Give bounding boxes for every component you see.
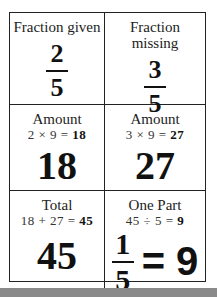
amount-equation: 2 × 9 = 18 <box>10 127 104 142</box>
total-equation: 18 + 27 = 45 <box>10 213 104 228</box>
one-part-equation: 45 ÷ 5 = 9 <box>105 213 205 228</box>
one-part-fraction: 1 5 <box>112 230 134 294</box>
equation-text: 2 × 9 = <box>28 127 73 142</box>
amount-value: 18 <box>10 144 104 188</box>
equation-result: 18 <box>72 127 86 142</box>
equation-text: 3 × 9 = <box>126 127 171 142</box>
total-label: Total <box>10 197 104 213</box>
equation-text: 45 ÷ 5 = <box>126 213 177 228</box>
numerator: 3 <box>149 57 162 83</box>
fraction-bar <box>144 86 166 88</box>
equation-result: 27 <box>170 127 184 142</box>
cell-total: Total 18 + 27 = 45 45 <box>10 191 105 294</box>
footer-bar <box>0 288 217 297</box>
equation-result: 45 <box>79 213 93 228</box>
total-value: 45 <box>10 234 104 278</box>
cell-one-part: One Part 45 ÷ 5 = 9 1 5 = 9 <box>105 191 205 294</box>
equation-text: 18 + 27 = <box>21 213 80 228</box>
one-part-value: 1 5 = 9 <box>105 228 205 294</box>
amount-label: Amount <box>105 111 205 127</box>
cell-fraction-missing: Fraction missing 3 5 <box>105 13 205 105</box>
one-part-label: One Part <box>105 197 205 213</box>
cell-amount-missing: Amount 3 × 9 = 27 27 <box>105 105 205 191</box>
fraction-given-label: Fraction given <box>10 19 104 35</box>
fraction-table: Fraction given 2 5 Fraction missing 3 5 … <box>9 12 206 282</box>
amount-value: 27 <box>105 144 205 188</box>
cell-amount-given: Amount 2 × 9 = 18 18 <box>10 105 105 191</box>
fraction-missing-label: Fraction missing <box>105 19 205 51</box>
fraction-given-value: 2 5 <box>46 41 68 101</box>
amount-equation: 3 × 9 = 27 <box>105 127 205 142</box>
one-part-result: = 9 <box>142 239 199 284</box>
equation-result: 9 <box>177 213 184 228</box>
cell-fraction-given: Fraction given 2 5 <box>10 13 105 105</box>
fraction-bar <box>46 70 68 72</box>
denominator: 5 <box>51 75 64 101</box>
amount-label: Amount <box>10 111 104 127</box>
numerator: 1 <box>115 230 130 258</box>
numerator: 2 <box>51 41 64 67</box>
